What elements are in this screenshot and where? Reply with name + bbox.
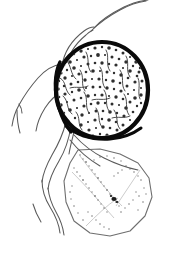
figure-canvas: Ink line illustration of a thick-walled … [0,0,170,257]
spore-body-group [55,42,148,139]
illustration-svg [0,0,170,257]
